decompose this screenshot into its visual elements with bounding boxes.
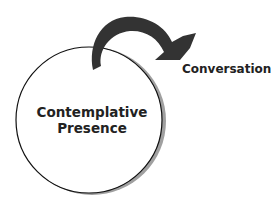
circle-label-line-2: Presence xyxy=(22,120,162,136)
conversation-label: Conversation xyxy=(182,62,271,76)
circle-label-line-1: Contemplative xyxy=(22,104,162,120)
circle-label: Contemplative Presence xyxy=(22,104,162,136)
